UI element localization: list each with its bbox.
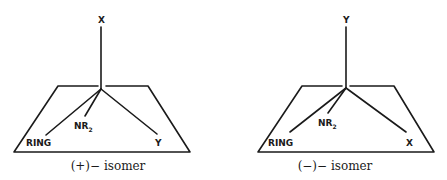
right-substituent-label: X [406, 138, 413, 148]
ring-label: RING [268, 138, 293, 148]
top-substituent-label: Y [342, 15, 350, 25]
right-substituent-label: Y [154, 138, 162, 148]
amine-label: NR2 [74, 121, 93, 133]
ring-label: RING [26, 138, 51, 148]
plus-isomer-panel: X RING NR2 Y (+)− isomer [14, 15, 190, 173]
bond-right [346, 88, 406, 132]
top-substituent-label: X [98, 15, 105, 25]
bond-amine [85, 89, 101, 116]
amine-label-text: NR [74, 121, 89, 131]
amine-subscript: 2 [332, 123, 336, 130]
amine-subscript: 2 [88, 126, 92, 133]
amine-label-text: NR [318, 118, 333, 128]
caption: (+)− isomer [71, 159, 146, 173]
bond-right [101, 89, 157, 134]
isomer-diagram: X RING NR2 Y (+)− isomer Y RING NR2 X (−… [0, 0, 447, 180]
minus-isomer-panel: Y RING NR2 X (−)− isomer [258, 15, 434, 173]
amine-label: NR2 [318, 118, 337, 130]
caption: (−)− isomer [298, 159, 373, 173]
